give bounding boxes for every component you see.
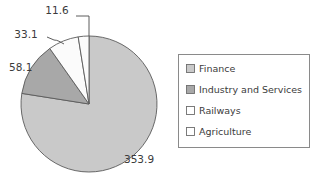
legend-swatch-industry-and-services xyxy=(187,86,195,94)
legend-label-industry-and-services: Industry and Services xyxy=(199,84,302,95)
legend-swatch-railways xyxy=(187,107,195,115)
chart-canvas: 11.6 33.1 58.1 353.9 Finance Industry an… xyxy=(0,0,318,180)
railways-leader-line xyxy=(47,37,64,44)
legend-label-railways: Railways xyxy=(199,105,241,116)
finance-value-label: 353.9 xyxy=(124,153,154,165)
legend-label-finance: Finance xyxy=(199,63,235,74)
agriculture-value-label: 11.6 xyxy=(45,4,69,16)
legend-swatch-finance xyxy=(187,65,195,73)
industry-and-services-value-label: 58.1 xyxy=(9,61,32,73)
legend-label-agriculture: Agriculture xyxy=(199,126,251,137)
legend-swatch-agriculture xyxy=(187,128,195,136)
legend: Finance Industry and Services Railways A… xyxy=(179,55,310,148)
pie-slices-group xyxy=(21,36,157,172)
legend-item-industry-and-services[interactable]: Industry and Services xyxy=(187,84,303,95)
legend-item-finance[interactable]: Finance xyxy=(187,63,236,74)
railways-value-label: 33.1 xyxy=(14,28,37,40)
agriculture-leader-line xyxy=(76,16,89,36)
legend-item-railways[interactable]: Railways xyxy=(187,105,241,116)
pie-chart-figure: 11.6 33.1 58.1 353.9 Finance Industry an… xyxy=(0,0,318,180)
